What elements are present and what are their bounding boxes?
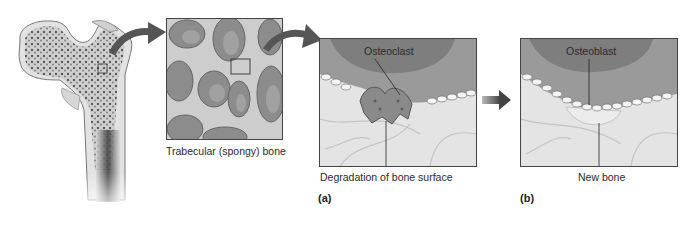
trabecular-caption: Trabecular (spongy) bone xyxy=(166,145,286,157)
osteoclast-label: Osteoclast xyxy=(364,45,414,57)
panel-a-caption: Degradation of bone surface xyxy=(320,171,453,183)
osteoblast-label: Osteoblast xyxy=(566,45,616,57)
panel-a-osteoclast: Osteoclast xyxy=(319,38,477,167)
panel-b-letter: (b) xyxy=(520,192,534,204)
panel-a-letter: (a) xyxy=(318,192,331,204)
straight-arrow-icon xyxy=(482,90,512,110)
curved-arrow-icon xyxy=(262,24,324,64)
panel-b-osteoblast: Osteoblast xyxy=(520,38,678,167)
panel-b-caption: New bone xyxy=(578,171,625,183)
curved-arrow-icon xyxy=(108,22,168,62)
